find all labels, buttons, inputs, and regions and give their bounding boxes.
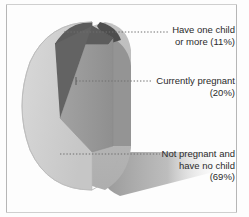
callout-have-one-child-line2: or more (11%): [172, 36, 235, 48]
callout-have-one-child: Have one child or more (11%): [172, 24, 235, 47]
callout-not-pregnant-no-child: Not pregnant and have no child (69%): [162, 148, 235, 183]
callout-currently-pregnant: Currently pregnant (20%): [156, 75, 235, 98]
callout-not-pregnant-line2: have no child: [162, 160, 235, 172]
callout-currently-pregnant-line1: Currently pregnant: [156, 75, 235, 87]
pie-chart-figure: Have one child or more (11%) Currently p…: [0, 0, 249, 217]
callout-not-pregnant-line3: (69%): [162, 171, 235, 183]
callout-currently-pregnant-line2: (20%): [156, 87, 235, 99]
callout-not-pregnant-line1: Not pregnant and: [162, 148, 235, 160]
callout-have-one-child-line1: Have one child: [172, 24, 235, 36]
